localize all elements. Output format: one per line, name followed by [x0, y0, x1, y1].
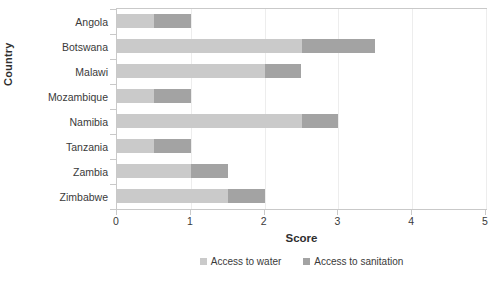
bar-segment-water[interactable] — [117, 14, 154, 28]
bar-row — [117, 109, 487, 134]
bar-row — [117, 134, 487, 159]
legend-swatch-icon — [200, 258, 207, 265]
stacked-bar[interactable] — [117, 139, 191, 153]
x-axis-tick-label: 4 — [399, 215, 423, 227]
y-axis-category-label: Zambia — [0, 166, 108, 178]
stacked-bar-chart: Country AngolaBotswanaMalawiMozambiqueNa… — [0, 0, 501, 282]
stacked-bar[interactable] — [117, 114, 338, 128]
bar-segment-sanitation[interactable] — [302, 114, 339, 128]
bar-segment-water[interactable] — [117, 64, 265, 78]
bar-segment-sanitation[interactable] — [191, 164, 228, 178]
x-axis-tick-label: 2 — [252, 215, 276, 227]
y-axis-category-label: Mozambique — [0, 91, 108, 103]
bar-segment-sanitation[interactable] — [154, 89, 191, 103]
bar-row — [117, 159, 487, 184]
stacked-bar[interactable] — [117, 39, 375, 53]
legend-item[interactable]: Access to water — [200, 256, 282, 267]
stacked-bar[interactable] — [117, 189, 265, 203]
y-axis-category-label: Botswana — [0, 41, 108, 53]
y-axis-tick — [110, 109, 116, 110]
y-axis-tick — [110, 84, 116, 85]
legend-label: Access to sanitation — [314, 256, 403, 267]
y-axis-tick — [110, 134, 116, 135]
chart-legend: Access to waterAccess to sanitation — [116, 256, 487, 267]
y-axis-tick — [110, 59, 116, 60]
bar-segment-water[interactable] — [117, 139, 154, 153]
legend-item[interactable]: Access to sanitation — [303, 256, 403, 267]
stacked-bar[interactable] — [117, 14, 191, 28]
bar-row — [117, 9, 487, 34]
bar-segment-water[interactable] — [117, 39, 302, 53]
y-axis-category-label: Malawi — [0, 66, 108, 78]
stacked-bar[interactable] — [117, 164, 228, 178]
bar-segment-sanitation[interactable] — [302, 39, 376, 53]
bar-segment-sanitation[interactable] — [154, 14, 191, 28]
y-axis-category-label: Zimbabwe — [0, 191, 108, 203]
bar-segment-water[interactable] — [117, 189, 228, 203]
stacked-bar[interactable] — [117, 89, 191, 103]
y-axis-tick — [110, 9, 116, 10]
bar-row — [117, 184, 487, 209]
x-axis-tick-labels: 012345 — [116, 215, 487, 229]
y-axis-category-label: Angola — [0, 16, 108, 28]
x-axis-tick-label: 0 — [104, 215, 128, 227]
bar-segment-water[interactable] — [117, 89, 154, 103]
y-axis-tick — [110, 159, 116, 160]
stacked-bar[interactable] — [117, 64, 302, 78]
bar-row — [117, 59, 487, 84]
bar-segment-water[interactable] — [117, 164, 191, 178]
bar-row — [117, 84, 487, 109]
bar-segment-sanitation[interactable] — [265, 64, 302, 78]
y-axis-tick — [110, 34, 116, 35]
x-axis-title: Score — [116, 232, 487, 244]
bar-rows — [117, 9, 487, 209]
bar-segment-sanitation[interactable] — [154, 139, 191, 153]
y-axis-tick — [110, 184, 116, 185]
bar-segment-sanitation[interactable] — [228, 189, 265, 203]
x-axis-tick-label: 5 — [473, 215, 497, 227]
y-axis-category-label: Tanzania — [0, 141, 108, 153]
y-axis-ticks — [110, 9, 116, 209]
legend-swatch-icon — [303, 258, 310, 265]
legend-label: Access to water — [211, 256, 282, 267]
bar-row — [117, 34, 487, 59]
x-axis-tick-label: 1 — [178, 215, 202, 227]
y-axis-category-labels: AngolaBotswanaMalawiMozambiqueNamibiaTan… — [0, 9, 108, 209]
bar-segment-water[interactable] — [117, 114, 302, 128]
y-axis-category-label: Namibia — [0, 116, 108, 128]
x-axis-tick-label: 3 — [325, 215, 349, 227]
